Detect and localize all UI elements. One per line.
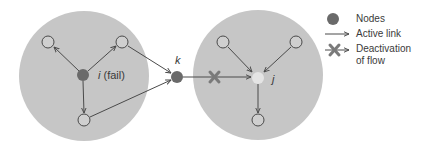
legend-active-link-label: Active link xyxy=(356,28,401,40)
legend-deactivation-label-line2: of flow xyxy=(356,55,385,67)
node-k xyxy=(171,71,183,83)
node-i-failed xyxy=(77,69,89,81)
node-l3 xyxy=(78,114,90,126)
node-r2 xyxy=(290,36,302,48)
node-i-label: i (fail) xyxy=(98,70,125,81)
node-r3 xyxy=(252,114,264,126)
node-l2 xyxy=(116,36,128,48)
node-j-label: j xyxy=(272,74,274,85)
legend-deactivation-label-line1: Deactivation xyxy=(356,43,411,55)
node-r1 xyxy=(217,36,229,48)
node-j-target xyxy=(252,72,264,84)
node-i-fail-suffix: (fail) xyxy=(100,69,124,81)
node-l1 xyxy=(42,36,54,48)
legend-node-icon xyxy=(327,13,339,25)
legend-nodes-label: Nodes xyxy=(356,13,385,25)
node-k-label: k xyxy=(175,55,181,66)
